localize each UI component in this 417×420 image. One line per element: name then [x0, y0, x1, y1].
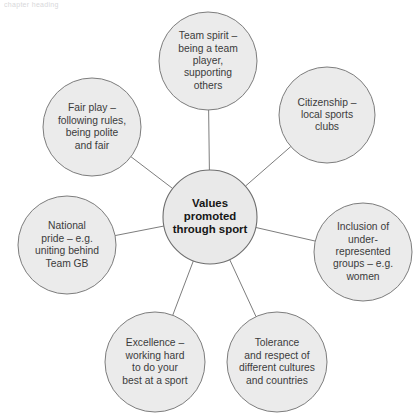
spoke-line-excellence: [173, 261, 194, 315]
spider-diagram: chapter heading Team spirit –being a tea…: [0, 0, 417, 420]
node-team-spirit[interactable]: Team spirit –being a teamplayer,supporti…: [159, 12, 257, 110]
spoke-line-fair-play: [131, 157, 173, 189]
spoke-line-citizenship: [245, 147, 290, 187]
center-node-group: Valuespromotedthrough sport: [163, 170, 257, 264]
spoke-line-inclusion: [256, 227, 315, 241]
diagram-canvas: Team spirit –being a teamplayer,supporti…: [0, 0, 417, 420]
spoke-line-team-spirit: [209, 110, 210, 170]
node-inclusion[interactable]: Inclusion ofunder-representedgroups – e.…: [314, 203, 412, 301]
node-tolerance[interactable]: Toleranceand respect ofdifferent culture…: [227, 312, 327, 412]
node-excellence[interactable]: Excellence –working hardto do yourbest a…: [105, 312, 205, 412]
spoke-line-national-pride: [115, 226, 164, 236]
node-fair-play[interactable]: Fair play –following rules,being politea…: [43, 78, 141, 176]
node-national-pride[interactable]: Nationalpride – e.g.uniting behindTeam G…: [18, 196, 116, 294]
spoke-line-tolerance: [230, 260, 256, 317]
node-citizenship[interactable]: Citizenship –local sportsclubs: [279, 67, 375, 163]
center-node[interactable]: Valuespromotedthrough sport: [163, 170, 257, 264]
